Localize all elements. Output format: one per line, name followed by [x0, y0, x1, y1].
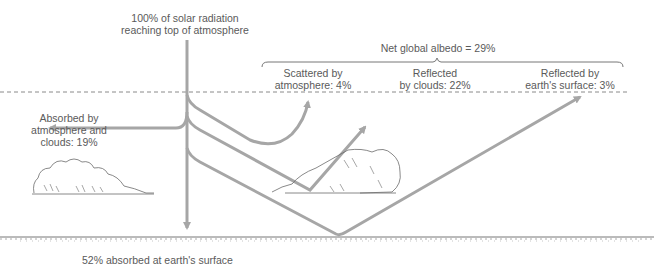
clouds-reflected-label-line2: by clouds: 22%	[390, 79, 480, 91]
clouds-reflected-label: Reflected by clouds: 22%	[390, 67, 480, 91]
surface-reflection-arrow	[187, 97, 580, 235]
scattered-label: Scattered by atmosphere: 4%	[268, 67, 358, 91]
earth-surface-ground	[0, 237, 654, 241]
albedo-bracket	[262, 58, 623, 67]
incoming-label-line2: reaching top of atmosphere	[110, 24, 260, 36]
cloud-left-icon	[32, 159, 154, 194]
absorbed-atmosphere-label-line3: clouds: 19%	[26, 136, 112, 148]
clouds-reflected-label-line1: Reflected	[390, 67, 480, 79]
surface-reflected-label-line2: earth's surface: 3%	[515, 79, 625, 91]
incoming-label-line1: 100% of solar radiation	[110, 12, 260, 24]
cloud-reflection-arrow	[187, 116, 365, 190]
absorbed-atmosphere-label-line2: atmosphere and	[26, 124, 112, 136]
absorbed-atmosphere-label-line1: Absorbed by	[26, 112, 112, 124]
cloud-right-icon	[272, 149, 400, 193]
scattered-label-line2: atmosphere: 4%	[268, 79, 358, 91]
surface-reflected-label-line1: Reflected by	[515, 67, 625, 79]
albedo-label: Net global albedo = 29%	[378, 42, 498, 54]
surface-reflected-label: Reflected by earth's surface: 3%	[515, 67, 625, 91]
scattered-arrow	[187, 95, 308, 144]
scattered-label-line1: Scattered by	[268, 67, 358, 79]
incoming-label: 100% of solar radiation reaching top of …	[110, 12, 260, 36]
absorbed-atmosphere-label: Absorbed by atmosphere and clouds: 19%	[26, 112, 112, 148]
absorbed-surface-label: 52% absorbed at earth's surface	[82, 254, 233, 266]
